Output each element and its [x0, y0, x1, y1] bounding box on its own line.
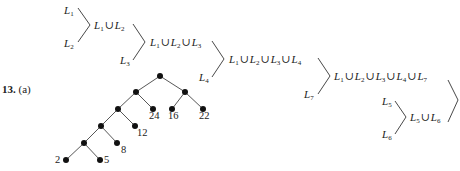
label-L1-union-L2: L1∪L2 [94, 20, 124, 33]
node-label: 24 [149, 111, 160, 122]
label-L3: L3 [120, 55, 130, 68]
label-L1-to-L4: L1∪L2∪L3∪L4 [229, 54, 301, 67]
label-L5-union-L6: L5∪L6 [410, 112, 440, 125]
node-label: 5 [104, 155, 109, 166]
label-L1: L1 [64, 5, 74, 18]
label-L1-to-L7: L1∪L2∪L3∪L4∪L7 [334, 71, 427, 84]
label-L6: L6 [382, 129, 392, 142]
tree-nodes [63, 73, 206, 163]
problem-number: 13. [2, 83, 16, 95]
label-L4: L4 [199, 72, 209, 85]
node-label: 22 [199, 111, 210, 122]
diagram-canvas [0, 0, 460, 171]
node-label: 8 [121, 145, 126, 156]
node-label: 16 [168, 111, 179, 122]
tree-edges [66, 76, 203, 160]
label-L5: L5 [382, 96, 392, 109]
problem-part: (a) [19, 83, 31, 95]
node-label: 12 [137, 128, 148, 139]
node-label: 2 [55, 155, 60, 166]
problem-label: 13. (a) [2, 83, 31, 95]
label-L7: L7 [304, 89, 314, 102]
label-L1-to-L3: L1∪L2∪L3 [150, 37, 201, 50]
label-L2: L2 [64, 38, 74, 51]
